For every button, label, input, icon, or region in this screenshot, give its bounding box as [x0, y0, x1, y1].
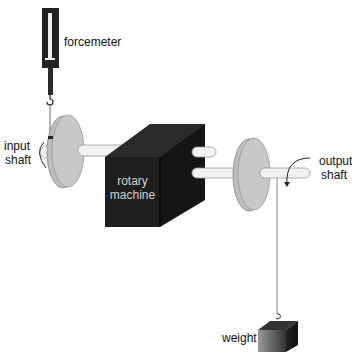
forcemeter-label: forcemeter	[64, 36, 121, 49]
weight-label: weight	[222, 332, 257, 345]
output-shaft-label-line2: shaft	[321, 169, 347, 182]
input-shaft-label-line2: shaft	[5, 154, 31, 167]
weight-icon	[258, 321, 298, 352]
output-shaft-label-line1: output	[319, 155, 352, 168]
input-shaft-label-line1: input	[4, 140, 30, 153]
rotary-machine-label-line2: machine	[105, 188, 160, 202]
auxiliary-shaft-stub	[192, 147, 216, 157]
rotary-machine-label-line1: rotary	[105, 174, 160, 188]
output-shaft	[260, 168, 310, 178]
